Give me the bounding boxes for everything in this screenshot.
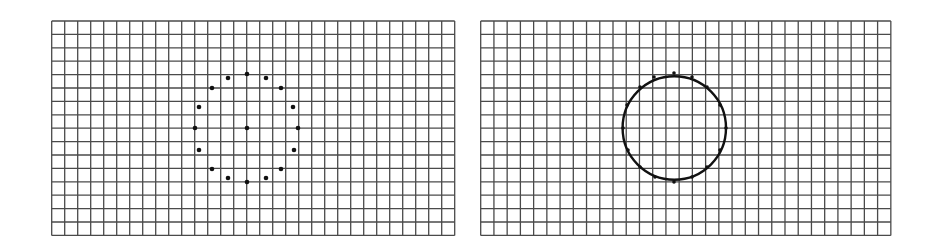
point-marker — [672, 180, 676, 184]
point-marker — [621, 126, 625, 130]
point-marker — [724, 126, 728, 130]
point-marker — [652, 75, 656, 79]
right-grid-diagram — [0, 0, 932, 246]
right-grid — [481, 21, 891, 235]
point-marker — [672, 71, 676, 75]
point-marker — [626, 148, 630, 152]
point-marker — [718, 103, 722, 107]
point-marker — [625, 103, 629, 107]
point-marker — [718, 148, 722, 152]
point-marker — [638, 165, 642, 169]
point-marker — [690, 175, 694, 179]
right-panel-circle — [0, 0, 932, 246]
point-marker — [705, 165, 709, 169]
point-marker — [653, 175, 657, 179]
point-marker — [705, 85, 709, 89]
point-marker — [690, 75, 694, 79]
point-marker — [638, 85, 642, 89]
